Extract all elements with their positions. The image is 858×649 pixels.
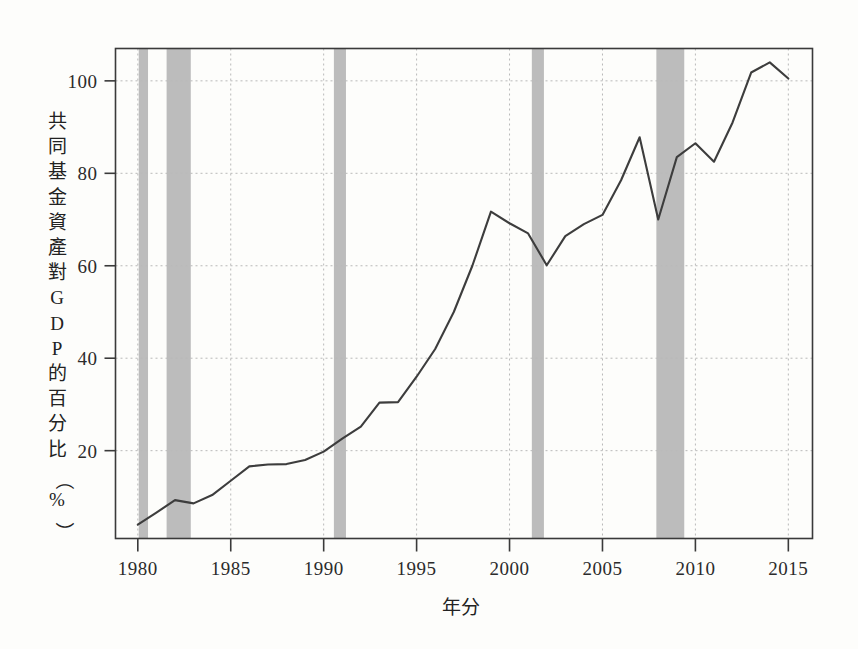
y-axis-title-char: D: [50, 313, 64, 334]
recession-band: [139, 49, 148, 539]
recession-band: [334, 49, 346, 539]
x-tick-label: 1980: [118, 558, 158, 579]
y-axis-title-char: 的: [48, 362, 67, 384]
y-axis-title-char: 共: [48, 110, 67, 132]
x-tick-label: 1995: [397, 558, 437, 579]
recession-band: [167, 49, 191, 539]
gridlines-group: [116, 49, 813, 539]
y-tick-label: 80: [78, 163, 98, 184]
y-axis-title-char: 產: [48, 236, 67, 258]
y-tick-label: 20: [78, 441, 98, 462]
y-tick-label: 40: [78, 348, 98, 369]
y-axis-title-char: %: [49, 489, 65, 510]
y-axis-title-char: （: [53, 471, 75, 490]
figure-container: 20406080100 1980198519901995200020052010…: [0, 0, 858, 649]
x-tick-label: 2015: [768, 558, 808, 579]
y-axis-title-char: 資: [48, 211, 67, 233]
x-tick-labels: 19801985199019952000200520102015: [118, 558, 809, 579]
y-axis-title-char: 金: [48, 186, 67, 208]
x-axis-title: 年分: [442, 596, 480, 618]
y-tick-label: 60: [78, 256, 98, 277]
mutual-fund-gdp-line-chart: 20406080100 1980198519901995200020052010…: [0, 0, 858, 649]
y-axis-title-char: 對: [48, 261, 67, 283]
x-tick-label: 2010: [675, 558, 715, 579]
plot-frame: [116, 49, 813, 539]
y-tick-label: 100: [68, 71, 98, 92]
y-axis-title-char: 分: [48, 412, 67, 434]
x-tick-label: 2000: [490, 558, 530, 579]
y-axis-title-char: 同: [48, 135, 67, 157]
recession-band: [656, 49, 684, 539]
y-axis-title: 共同基金資產對GDP的百分比（%）: [48, 110, 76, 541]
x-tick-label: 2005: [582, 558, 622, 579]
recession-band: [532, 49, 544, 539]
x-tick-label: 1990: [304, 558, 344, 579]
y-tick-labels: 20406080100: [68, 71, 98, 462]
y-axis-title-char: 基: [48, 160, 67, 182]
y-axis-title-char: ）: [53, 522, 75, 541]
y-axis-title-char: 比: [48, 438, 67, 460]
y-axis-title-char: 百: [48, 387, 67, 409]
x-tick-label: 1985: [211, 558, 251, 579]
data-series-line: [138, 62, 789, 524]
y-axis-title-char: P: [52, 338, 63, 359]
y-axis-title-char: G: [50, 287, 64, 308]
